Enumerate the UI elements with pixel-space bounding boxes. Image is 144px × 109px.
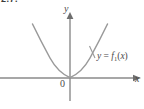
y-axis-label: y	[64, 4, 68, 14]
x-axis-label: x	[135, 74, 139, 84]
curve-label-operator: =	[101, 51, 111, 61]
origin-label: 0	[60, 79, 65, 89]
curve-label-close-paren: )	[125, 51, 128, 61]
curve-function-label: y = f1(x)	[97, 51, 128, 64]
parabola-figure: 2.7. y x 0 y = f1(x)	[0, 0, 144, 109]
